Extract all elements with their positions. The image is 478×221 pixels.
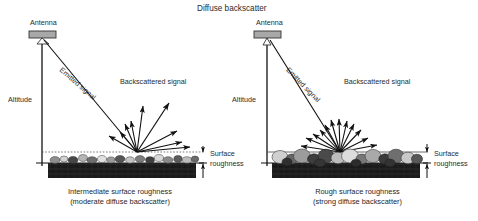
scatter-arrows-right bbox=[301, 119, 377, 152]
scatter-arrows-left bbox=[109, 103, 190, 152]
diffuse-backscatter-figure: Diffuse backscatter Antenna Altitude Emi… bbox=[0, 0, 478, 221]
antenna-body-left bbox=[29, 31, 56, 38]
ground-bar-left bbox=[48, 163, 196, 178]
left-panel-vectors bbox=[29, 31, 207, 178]
diagram-vectors bbox=[0, 0, 478, 221]
surface-roughness-measure-right bbox=[423, 144, 431, 178]
ground-bar-right bbox=[272, 163, 420, 178]
surface-roughness-measure-left bbox=[199, 146, 207, 178]
right-panel-vectors bbox=[254, 31, 431, 178]
ground-particles-left bbox=[50, 155, 199, 164]
antenna-horn-right bbox=[263, 38, 271, 45]
antenna-body-right bbox=[254, 31, 281, 38]
emitted-signal-beam-right bbox=[270, 40, 340, 152]
